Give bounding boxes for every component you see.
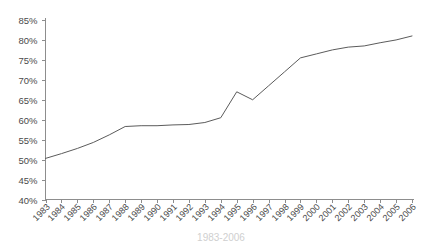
y-tick-label: 55% bbox=[18, 135, 38, 146]
y-tick-label: 80% bbox=[18, 35, 38, 46]
y-tick-label: 85% bbox=[18, 15, 38, 26]
x-tick-label: 2000 bbox=[301, 202, 322, 223]
x-axis-labels: 1983198419851986198719881989199019911992… bbox=[31, 202, 418, 223]
x-tick-label: 1993 bbox=[190, 202, 211, 223]
y-tick-label: 75% bbox=[18, 55, 38, 66]
y-tick-label: 50% bbox=[18, 155, 38, 166]
x-tick-label: 1989 bbox=[126, 202, 147, 223]
x-tick-label: 1992 bbox=[174, 202, 195, 223]
x-tick-label: 1986 bbox=[78, 202, 99, 223]
x-tick-label: 1987 bbox=[94, 202, 115, 223]
x-tick-label: 1990 bbox=[142, 202, 163, 223]
x-tick-label: 2003 bbox=[349, 202, 370, 223]
line-chart: 85%80%75%70%65%60%55%50%45%40% 198319841… bbox=[0, 0, 424, 241]
x-tick-label: 1995 bbox=[222, 202, 243, 223]
chart-container: 85%80%75%70%65%60%55%50%45%40% 198319841… bbox=[0, 0, 424, 241]
y-tick-label: 70% bbox=[18, 75, 38, 86]
x-tick-label: 2005 bbox=[381, 202, 402, 223]
data-series-line bbox=[46, 36, 413, 158]
x-tick-label: 1994 bbox=[206, 202, 227, 223]
x-tick-label: 1996 bbox=[238, 202, 259, 223]
y-axis-ticks bbox=[42, 21, 46, 201]
x-axis-ticks bbox=[47, 200, 413, 204]
x-tick-label: 1991 bbox=[158, 202, 179, 223]
x-tick-label: 1988 bbox=[110, 202, 131, 223]
y-axis-labels: 85%80%75%70%65%60%55%50%45%40% bbox=[18, 15, 38, 206]
x-tick-label: 1984 bbox=[46, 202, 67, 223]
x-tick-label: 2006 bbox=[397, 202, 418, 223]
figure-caption: 1983-2006 bbox=[0, 233, 424, 241]
caption-text: 1983-2006 bbox=[0, 233, 424, 241]
x-tick-label: 2002 bbox=[333, 202, 354, 223]
y-tick-label: 65% bbox=[18, 95, 38, 106]
x-tick-label: 2001 bbox=[317, 202, 338, 223]
y-tick-label: 45% bbox=[18, 175, 38, 186]
y-tick-label: 40% bbox=[18, 195, 38, 206]
x-tick-label: 1999 bbox=[285, 202, 306, 223]
x-tick-label: 2004 bbox=[365, 202, 386, 223]
y-tick-label: 60% bbox=[18, 115, 38, 126]
x-tick-label: 1985 bbox=[62, 202, 83, 223]
x-tick-label: 1997 bbox=[254, 202, 275, 223]
